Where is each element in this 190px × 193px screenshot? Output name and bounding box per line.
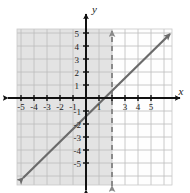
x-tick-label: -4: [30, 102, 38, 112]
y-tick-label: 5: [75, 29, 80, 39]
coordinate-plane-figure: -5 -4 -3 -2 -1 1 3 4 5 5 4 3 2 1 -1 -2 -…: [0, 0, 190, 193]
x-tick-label: -5: [17, 102, 25, 112]
x-tick-label: -3: [43, 102, 51, 112]
y-tick-label: -5: [74, 159, 82, 169]
y-tick-label: -2: [74, 120, 82, 130]
x-tick-label: -2: [56, 102, 64, 112]
x-tick-label: 3: [123, 102, 128, 112]
y-tick-label: 1: [75, 81, 80, 91]
y-tick-label: 2: [75, 68, 80, 78]
y-tick-label: 3: [75, 55, 80, 65]
y-tick-label: -4: [74, 146, 82, 156]
y-axis-label: y: [91, 3, 97, 15]
y-tick-label: -1: [74, 107, 82, 117]
x-axis-label: x: [178, 85, 184, 97]
y-tick-label: -3: [74, 133, 82, 143]
x-tick-label: 1: [97, 102, 102, 112]
y-tick-label: 4: [75, 42, 80, 52]
graph-canvas: -5 -4 -3 -2 -1 1 3 4 5 5 4 3 2 1 -1 -2 -…: [0, 0, 190, 193]
x-tick-label: 5: [149, 102, 154, 112]
x-tick-label: 4: [136, 102, 141, 112]
